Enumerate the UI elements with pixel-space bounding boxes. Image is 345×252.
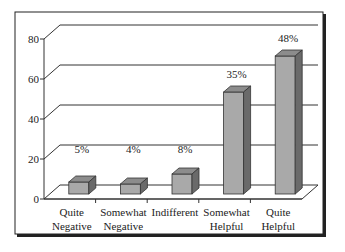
- bar-chart: 0204060805%QuiteNegative4%SomewhatNegati…: [0, 0, 345, 252]
- bar-front: [224, 92, 244, 194]
- data-label: 35%: [227, 68, 247, 80]
- category-label: Indifferent: [152, 206, 199, 218]
- category-label: Somewhat: [100, 206, 146, 218]
- category-label: Negative: [52, 220, 92, 232]
- category-label: Negative: [104, 220, 144, 232]
- bar-side: [244, 86, 251, 194]
- y-tick-label: 40: [28, 113, 40, 125]
- category-label: Helpful: [210, 220, 244, 232]
- bar-front: [69, 182, 89, 194]
- category-label: Helpful: [261, 220, 295, 232]
- bar-front: [172, 174, 192, 194]
- data-label: 5%: [74, 143, 89, 155]
- data-label: 48%: [278, 32, 298, 44]
- y-tick-label: 60: [28, 73, 40, 85]
- bar-front: [275, 56, 295, 194]
- bar-side: [295, 50, 302, 194]
- y-tick-label: 80: [28, 33, 40, 45]
- category-label: Quite: [60, 206, 85, 218]
- category-label: Somewhat: [203, 206, 249, 218]
- data-label: 8%: [178, 143, 193, 155]
- category-label: Quite: [266, 206, 291, 218]
- y-tick-label: 0: [34, 193, 40, 205]
- bar-front: [120, 184, 140, 194]
- y-tick-label: 20: [28, 153, 40, 165]
- data-label: 4%: [126, 143, 141, 155]
